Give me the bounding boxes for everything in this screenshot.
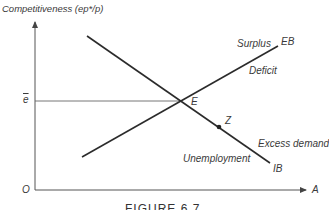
unemployment-label: Unemployment bbox=[183, 154, 250, 164]
deficit-label: Deficit bbox=[249, 66, 277, 76]
e-bar-label: e bbox=[23, 95, 29, 105]
x-axis-label: A bbox=[312, 185, 319, 195]
ib-label: IB bbox=[273, 164, 282, 174]
surplus-label: Surplus bbox=[237, 39, 271, 49]
point-e-label: E bbox=[191, 97, 198, 107]
figure-caption: FIGURE 6.7 bbox=[125, 203, 200, 210]
diagram-canvas bbox=[0, 0, 329, 210]
e-bar-text: e bbox=[23, 94, 29, 105]
ib-curve bbox=[87, 36, 270, 163]
eb-label: EB bbox=[281, 37, 294, 47]
point-z-label: Z bbox=[225, 116, 231, 126]
point-z-marker bbox=[217, 125, 222, 130]
y-axis-label: Competitiveness (ep*/p) bbox=[2, 4, 103, 14]
origin-label: O bbox=[22, 185, 30, 195]
excess-demand-label: Excess demand bbox=[258, 139, 329, 149]
